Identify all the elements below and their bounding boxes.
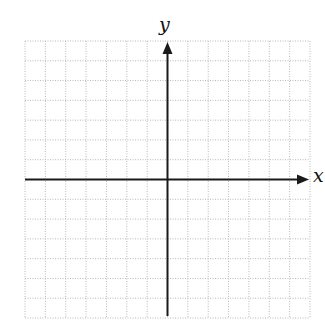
y-axis-arrow-icon <box>163 42 173 54</box>
coordinate-plane <box>0 0 325 328</box>
x-axis-label: x <box>313 166 324 185</box>
y-axis-label: y <box>159 15 170 34</box>
x-axis-arrow-icon <box>297 175 309 185</box>
axes <box>25 42 309 316</box>
